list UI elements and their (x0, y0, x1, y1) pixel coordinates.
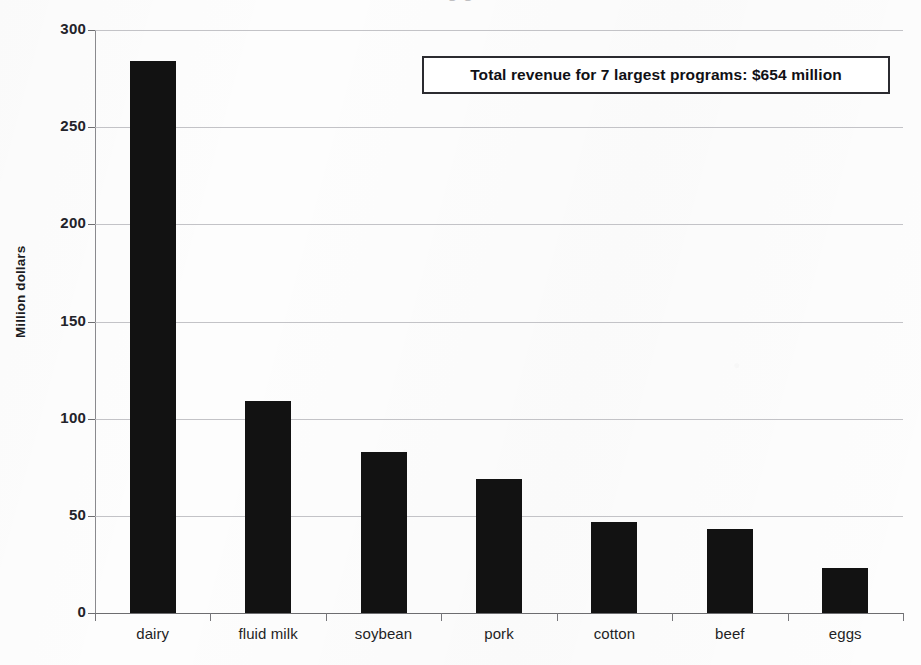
x-tick-label-soybean: soybean (326, 625, 441, 642)
y-tick-label-0: 0 (38, 603, 86, 620)
y-tick-label-50: 50 (38, 506, 86, 523)
x-tick-label-pork: pork (441, 625, 556, 642)
y-tick-label-100: 100 (38, 409, 86, 426)
y-axis-title: Million dollars (13, 288, 28, 338)
y-tick-label-250: 250 (38, 117, 86, 134)
y-axis-tick-labels: 050100150200250300 (26, 0, 86, 665)
y-tick-label-200: 200 (38, 214, 86, 231)
x-tick-label-beef: beef (672, 625, 787, 642)
x-tick-mark-7 (903, 613, 904, 621)
total-revenue-annotation-box: Total revenue for 7 largest programs: $6… (422, 56, 890, 94)
x-axis-tick-labels: dairyfluid milksoybeanporkcottonbeefeggs (95, 0, 903, 665)
y-tick-mark-300 (88, 30, 95, 31)
x-tick-label-dairy: dairy (95, 625, 210, 642)
y-tick-label-300: 300 (38, 20, 86, 37)
y-tick-mark-150 (88, 322, 95, 323)
y-tick-mark-250 (88, 127, 95, 128)
x-tick-label-eggs: eggs (788, 625, 903, 642)
y-tick-mark-50 (88, 516, 95, 517)
bar-chart: 050100150200250300 Million dollars dairy… (0, 0, 921, 665)
x-tick-label-fluid-milk: fluid milk (210, 625, 325, 642)
y-tick-mark-100 (88, 419, 95, 420)
y-tick-mark-0 (88, 613, 95, 614)
y-tick-mark-200 (88, 224, 95, 225)
y-tick-label-150: 150 (38, 312, 86, 329)
total-revenue-annotation-text: Total revenue for 7 largest programs: $6… (470, 66, 842, 84)
x-tick-label-cotton: cotton (557, 625, 672, 642)
